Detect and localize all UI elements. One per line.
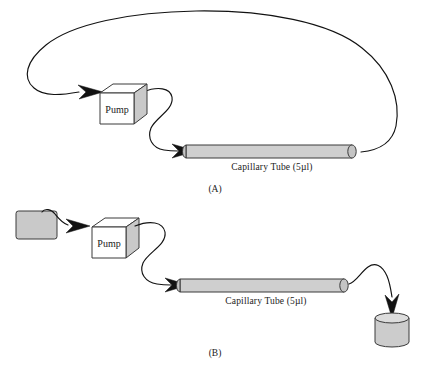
pump-inlet-arrow-a bbox=[78, 85, 103, 99]
panel-caption-b: (B) bbox=[209, 348, 222, 359]
panel-b: Pump Capillary Tube (5µl) (B) bbox=[16, 210, 409, 359]
pump-b: Pump bbox=[92, 218, 139, 258]
collection-vessel-rim-b bbox=[375, 313, 409, 323]
pump-label-a: Pump bbox=[105, 104, 128, 115]
capillary-tube-label-b: Capillary Tube (5µl) bbox=[225, 296, 306, 307]
capillary-tube-body-a bbox=[186, 145, 352, 158]
capillary-tube-right-cap-b bbox=[340, 279, 348, 292]
tube-to-vessel-path-b bbox=[349, 265, 392, 297]
pump-inlet-arrow-b bbox=[66, 219, 90, 233]
pump-a: Pump bbox=[100, 84, 147, 124]
capillary-tube-label-a: Capillary Tube (5µl) bbox=[231, 162, 312, 173]
capillary-tube-body-b bbox=[180, 279, 344, 292]
capillary-tube-right-cap-a bbox=[348, 145, 356, 158]
panel-a: Capillary Tube (5µl) Pump (A) bbox=[27, 11, 397, 195]
pump-to-tube-path-b bbox=[135, 223, 171, 285]
recirculation-loop-path bbox=[27, 11, 397, 152]
capillary-tube-left-cap-a bbox=[183, 145, 186, 158]
flow-system-diagram: Capillary Tube (5µl) Pump (A) bbox=[0, 0, 430, 370]
source-reservoir-b bbox=[16, 211, 57, 239]
pump-label-b: Pump bbox=[97, 238, 120, 249]
capillary-tube-a bbox=[183, 145, 357, 158]
panel-caption-a: (A) bbox=[208, 184, 221, 195]
capillary-tube-b bbox=[177, 279, 349, 292]
pump-to-tube-path-a bbox=[143, 89, 178, 151]
capillary-tube-left-cap-b bbox=[177, 279, 180, 292]
figure-root: Capillary Tube (5µl) Pump (A) bbox=[0, 0, 430, 370]
collection-vessel-b bbox=[375, 313, 409, 347]
